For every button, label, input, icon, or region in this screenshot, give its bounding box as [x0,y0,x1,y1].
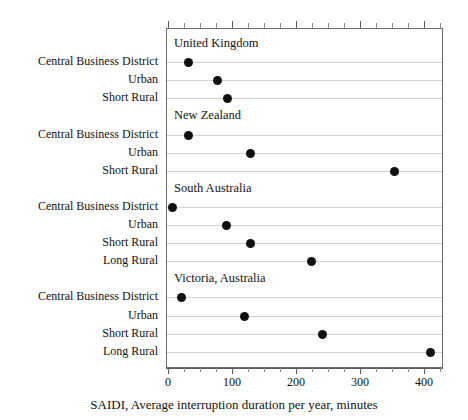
row-label: Long Rural [0,345,158,357]
x-tick-top [264,23,265,28]
x-tick-top [184,23,185,28]
data-point [184,58,193,67]
x-tick-major [232,368,233,374]
row-label: Central Business District [0,200,158,212]
data-point [184,131,193,140]
row-label: Urban [0,309,158,321]
panel-title-1: New Zealand [174,109,241,122]
data-point [307,257,316,266]
x-tick-minor [216,368,217,372]
data-point [318,330,327,339]
row-label: Short Rural [0,327,158,339]
x-tick-top [232,21,233,28]
x-tick-minor [440,368,441,372]
x-tick-minor [392,368,393,372]
data-point [213,76,222,85]
x-tick-minor [328,368,329,372]
data-point [246,239,255,248]
x-tick-top [312,23,313,28]
gridline [167,243,442,244]
data-point [223,94,232,103]
x-tick-top [216,23,217,28]
gridline [167,316,442,317]
x-tick-minor [408,368,409,372]
data-point [390,167,399,176]
x-tick-minor [344,368,345,372]
x-tick-top [296,21,297,28]
x-tick-major [424,368,425,374]
x-tick-label: 400 [415,376,433,388]
x-tick-label: 100 [223,376,241,388]
x-tick-minor [248,368,249,372]
x-tick-label: 200 [287,376,305,388]
row-label: Urban [0,218,158,230]
x-tick-label: 0 [165,376,171,388]
x-tick-top [168,21,169,28]
panel-title-3: Victoria, Australia [174,272,266,285]
gridline [167,297,442,298]
row-label: Urban [0,146,158,158]
gridline [167,334,442,335]
gridline [167,135,442,136]
row-label: Short Rural [0,236,158,248]
gridline [167,171,442,172]
x-tick-minor [280,368,281,372]
gridline [167,80,442,81]
row-label: Short Rural [0,164,158,176]
panel-title-0: United Kingdom [174,37,258,50]
x-tick-top [344,23,345,28]
x-tick-top [200,23,201,28]
data-point [426,348,435,357]
gridline [167,261,442,262]
x-axis: 0100200300400 [166,368,443,369]
gridline [167,98,442,99]
x-axis-title: SAIDI, Average interruption duration per… [0,398,468,411]
gridline [167,352,442,353]
data-point [168,203,177,212]
data-point [222,221,231,230]
x-tick-top [360,21,361,28]
x-tick-top [424,21,425,28]
x-tick-top [408,23,409,28]
plot-area: United KingdomNew ZealandSouth Australia… [166,28,443,368]
x-tick-top [248,23,249,28]
row-label: Central Business District [0,290,158,302]
x-tick-minor [184,368,185,372]
x-tick-top [328,23,329,28]
x-tick-top [440,23,441,28]
x-tick-top [392,23,393,28]
gridline [167,225,442,226]
data-point [240,312,249,321]
gridline [167,153,442,154]
data-point [246,149,255,158]
x-tick-minor [264,368,265,372]
x-tick-minor [376,368,377,372]
row-label: Short Rural [0,91,158,103]
x-tick-major [360,368,361,374]
chart-root: United KingdomNew ZealandSouth Australia… [0,0,468,420]
row-label: Central Business District [0,55,158,67]
panel-title-2: South Australia [174,182,251,195]
x-tick-top [280,23,281,28]
x-tick-top [376,23,377,28]
row-label: Long Rural [0,254,158,266]
x-tick-major [296,368,297,374]
data-point [177,293,186,302]
row-label: Central Business District [0,128,158,140]
x-tick-major [168,368,169,374]
x-tick-label: 300 [351,376,369,388]
x-tick-minor [312,368,313,372]
gridline [167,207,442,208]
x-tick-minor [200,368,201,372]
row-label: Urban [0,73,158,85]
gridline [167,62,442,63]
